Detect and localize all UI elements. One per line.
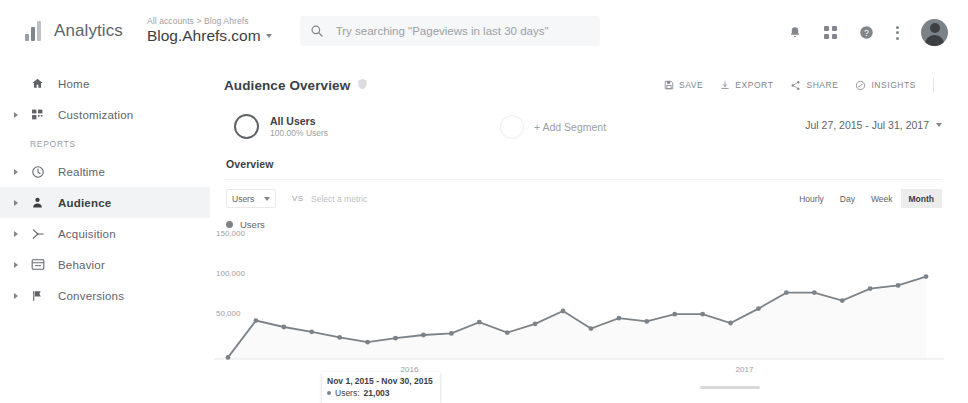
sidebar-item-label: Realtime bbox=[58, 166, 105, 178]
data-point[interactable] bbox=[700, 312, 705, 317]
sidebar-item-realtime[interactable]: Realtime bbox=[0, 156, 210, 187]
account-selector[interactable]: All accounts > Blog Ahrefs Blog.Ahrefs.c… bbox=[147, 16, 272, 45]
data-point[interactable] bbox=[644, 319, 649, 324]
granularity-month[interactable]: Month bbox=[901, 189, 943, 208]
data-point[interactable] bbox=[533, 321, 538, 326]
data-point[interactable] bbox=[924, 274, 929, 279]
segment-subtitle: 100.00% Users bbox=[270, 128, 328, 139]
granularity-week[interactable]: Week bbox=[863, 189, 901, 208]
tab-overview[interactable]: Overview bbox=[226, 158, 274, 170]
segment-bar: All Users 100.00% Users + Add Segment Ju… bbox=[210, 110, 968, 154]
data-point[interactable] bbox=[421, 333, 426, 338]
y-axis-tick-label: 50,000 bbox=[216, 309, 241, 318]
chart-legend: Users bbox=[226, 219, 265, 230]
avatar[interactable] bbox=[921, 19, 948, 46]
sidebar-item-label: Home bbox=[58, 78, 89, 90]
sidebar-item-home[interactable]: Home bbox=[0, 68, 210, 99]
users-line-chart[interactable]: 50,000100,000150,00020162017 bbox=[210, 231, 950, 381]
tooltip-series-label: Users: bbox=[335, 387, 360, 399]
data-point[interactable] bbox=[672, 312, 677, 317]
data-point[interactable] bbox=[281, 325, 286, 330]
help-circle-icon[interactable]: ? bbox=[859, 25, 874, 40]
data-point[interactable] bbox=[616, 316, 621, 321]
chevron-right-icon bbox=[14, 293, 18, 299]
chevron-right-icon bbox=[14, 262, 18, 268]
property-name[interactable]: Blog.Ahrefs.com bbox=[147, 27, 272, 45]
data-point[interactable] bbox=[589, 326, 594, 331]
share-button[interactable]: SHARE bbox=[790, 80, 838, 91]
data-point[interactable] bbox=[477, 320, 482, 325]
data-point[interactable] bbox=[449, 331, 454, 336]
brand-name[interactable]: Analytics bbox=[54, 21, 123, 41]
data-point[interactable] bbox=[309, 329, 314, 334]
more-vertical-icon[interactable] bbox=[896, 26, 899, 40]
data-point[interactable] bbox=[784, 290, 789, 295]
granularity-day[interactable]: Day bbox=[832, 189, 863, 208]
data-point[interactable] bbox=[728, 321, 733, 326]
select-metric-input[interactable]: Select a metric bbox=[311, 194, 367, 204]
data-point[interactable] bbox=[337, 335, 342, 340]
topbar-icon-group: ? bbox=[788, 19, 948, 46]
bell-icon[interactable] bbox=[788, 25, 802, 40]
share-nodes-icon bbox=[790, 80, 801, 91]
tab-underline bbox=[224, 179, 942, 180]
data-point[interactable] bbox=[561, 309, 566, 314]
sidebar-item-label: Conversions bbox=[58, 290, 124, 302]
segment-all-users[interactable]: All Users 100.00% Users bbox=[234, 114, 328, 139]
chart-area-fill bbox=[228, 277, 926, 359]
clock-icon bbox=[30, 164, 45, 179]
sidebar-item-customization[interactable]: Customization bbox=[0, 99, 210, 130]
add-segment-button[interactable]: + Add Segment bbox=[500, 115, 606, 139]
behavior-window-icon bbox=[30, 257, 45, 272]
breadcrumb: All accounts > Blog Ahrefs bbox=[147, 16, 272, 26]
search-icon bbox=[310, 24, 324, 38]
svg-text:?: ? bbox=[864, 28, 869, 38]
chevron-right-icon bbox=[14, 231, 18, 237]
chevron-right-icon bbox=[14, 200, 18, 206]
sidebar-item-label: Behavior bbox=[58, 259, 105, 271]
data-point[interactable] bbox=[365, 340, 370, 345]
shield-icon[interactable] bbox=[357, 76, 368, 94]
chevron-right-icon bbox=[14, 169, 18, 175]
chart-area: Users 50,000100,000150,00020162017 Nov 1… bbox=[210, 219, 968, 391]
export-button[interactable]: EXPORT bbox=[720, 80, 773, 91]
sidebar-item-acquisition[interactable]: Acquisition bbox=[0, 218, 210, 249]
tooltip-value-row: Users: 21,003 bbox=[327, 387, 433, 399]
sidebar-item-audience[interactable]: Audience bbox=[0, 187, 210, 218]
property-label: Blog.Ahrefs.com bbox=[147, 27, 261, 45]
data-point[interactable] bbox=[756, 306, 761, 311]
chevron-right-icon bbox=[14, 112, 18, 118]
export-label: EXPORT bbox=[735, 80, 773, 90]
sidebar-item-label: Audience bbox=[58, 197, 111, 209]
search-input[interactable]: Try searching "Pageviews in last 30 days… bbox=[300, 16, 600, 46]
vs-label: VS bbox=[292, 194, 303, 203]
tooltip-series-dot bbox=[327, 391, 331, 395]
sidebar-item-behavior[interactable]: Behavior bbox=[0, 249, 210, 280]
analytics-bars-icon[interactable] bbox=[25, 21, 41, 41]
data-point[interactable] bbox=[868, 286, 873, 291]
save-button[interactable]: SAVE bbox=[664, 80, 703, 90]
metric-select-users[interactable]: Users bbox=[226, 189, 276, 208]
granularity-toggle: Hourly Day Week Month bbox=[791, 189, 942, 208]
share-label: SHARE bbox=[806, 80, 838, 90]
legend-label-users: Users bbox=[240, 219, 265, 230]
data-point[interactable] bbox=[812, 290, 817, 295]
segment-name: All Users bbox=[270, 115, 328, 128]
chevron-down-icon bbox=[266, 34, 272, 38]
granularity-hourly[interactable]: Hourly bbox=[791, 189, 832, 208]
data-point[interactable] bbox=[393, 336, 398, 341]
data-point[interactable] bbox=[896, 283, 901, 288]
tab-bar: Overview bbox=[210, 158, 968, 182]
insights-button[interactable]: INSIGHTS bbox=[855, 80, 916, 91]
main-content: Audience Overview SAVE EXPORT bbox=[210, 62, 968, 391]
apps-grid-icon[interactable] bbox=[824, 26, 837, 39]
sidebar-item-label: Customization bbox=[58, 109, 133, 121]
data-point[interactable] bbox=[840, 298, 845, 303]
sidebar-item-conversions[interactable]: Conversions bbox=[0, 280, 210, 311]
data-point[interactable] bbox=[226, 355, 231, 360]
date-range-picker[interactable]: Jul 27, 2015 - Jul 31, 2017 bbox=[805, 119, 942, 131]
sidebar-item-label: Acquisition bbox=[58, 228, 116, 240]
horizontal-scrollbar[interactable] bbox=[700, 386, 760, 389]
data-point[interactable] bbox=[505, 330, 510, 335]
data-point[interactable] bbox=[254, 318, 259, 323]
